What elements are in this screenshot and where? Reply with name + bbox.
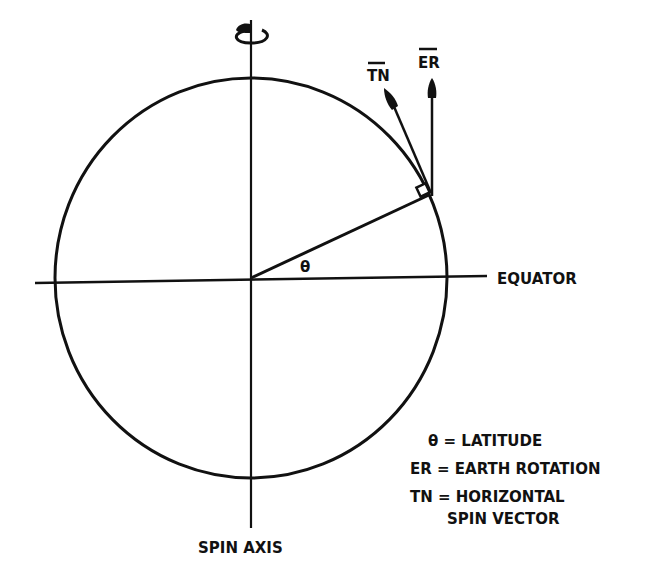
legend: θ = LATITUDE ER = EARTH ROTATION TN = HO… <box>410 432 600 528</box>
legend-line-spin-vector: SPIN VECTOR <box>447 510 560 528</box>
er-arrowhead-icon <box>428 78 437 98</box>
latitude-radius-line <box>251 195 429 278</box>
tn-label: TN <box>367 67 390 85</box>
earth-rotation-diagram: TN ER θ EQUATOR SPIN AXIS θ = LATITUDE E… <box>0 0 668 587</box>
theta-label: θ <box>300 258 310 276</box>
equator-line <box>35 276 487 283</box>
spin-axis-label: SPIN AXIS <box>198 539 283 557</box>
legend-line-horizontal: TN = HORIZONTAL <box>410 488 565 506</box>
legend-line-latitude: θ = LATITUDE <box>428 432 542 450</box>
tn-arrowhead-icon <box>384 88 398 110</box>
legend-line-earth-rotation: ER = EARTH ROTATION <box>410 460 600 478</box>
er-label: ER <box>418 54 440 72</box>
equator-label: EQUATOR <box>497 270 577 288</box>
